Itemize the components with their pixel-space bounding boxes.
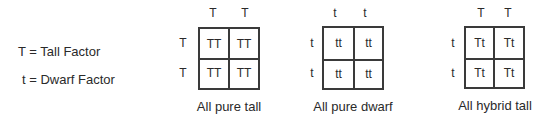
genotype-cell: tt bbox=[355, 67, 382, 81]
legend-tall: T = Tall Factor bbox=[18, 44, 100, 59]
left-allele: t bbox=[443, 66, 463, 80]
top-allele: t bbox=[355, 6, 375, 20]
genotype-cell: tt bbox=[324, 36, 353, 50]
grid-divider bbox=[200, 58, 258, 60]
punnett-grid: TT TT TT TT bbox=[198, 27, 260, 90]
left-allele: T bbox=[173, 36, 193, 50]
caption: All pure dwarf bbox=[303, 99, 403, 114]
caption: All hybrid tall bbox=[445, 98, 540, 113]
genotype-cell: Tt bbox=[495, 66, 523, 80]
genotype-cell: tt bbox=[324, 67, 353, 81]
top-allele: T bbox=[498, 6, 518, 20]
genotype-cell: TT bbox=[200, 66, 228, 80]
left-allele: T bbox=[173, 66, 193, 80]
left-allele: t bbox=[302, 66, 322, 80]
left-allele: t bbox=[443, 36, 463, 50]
caption: All pure tall bbox=[182, 99, 276, 114]
punnett-grid: tt tt tt tt bbox=[322, 26, 384, 90]
genotype-cell: TT bbox=[230, 37, 258, 51]
genotype-cell: Tt bbox=[495, 36, 523, 50]
top-allele: T bbox=[471, 6, 491, 20]
genotype-cell: tt bbox=[355, 36, 382, 50]
top-allele: T bbox=[235, 6, 255, 20]
grid-divider bbox=[324, 59, 382, 61]
top-allele: t bbox=[325, 6, 345, 20]
left-allele: t bbox=[302, 36, 322, 50]
genotype-cell: TT bbox=[230, 66, 258, 80]
punnett-grid: Tt Tt Tt Tt bbox=[464, 26, 525, 89]
top-allele: T bbox=[203, 6, 223, 20]
genotype-cell: Tt bbox=[466, 36, 493, 50]
grid-divider bbox=[466, 58, 523, 60]
legend-dwarf: t = Dwarf Factor bbox=[22, 72, 115, 87]
genotype-cell: TT bbox=[200, 37, 228, 51]
genotype-cell: Tt bbox=[466, 66, 493, 80]
